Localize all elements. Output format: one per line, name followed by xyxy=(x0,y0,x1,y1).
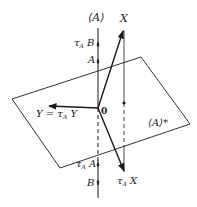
vector-tau-X xyxy=(98,108,124,171)
reflection-diagram: ⟨A⟩ X τA B A 0 Y = τA Y ⟨A⟩* τA A' B τA … xyxy=(0,0,197,207)
label-tau-A-prime: τA A' xyxy=(76,158,99,170)
label-X: X xyxy=(119,12,129,25)
label-Y-equation: Y = τA Y xyxy=(36,108,78,120)
label-subspace-A: ⟨A⟩ xyxy=(88,11,105,24)
label-tau-B: τA B xyxy=(74,37,94,49)
label-A: A xyxy=(87,54,95,65)
label-tau-X: τA X xyxy=(117,175,138,187)
label-origin: 0 xyxy=(101,106,107,116)
projection-point xyxy=(122,101,125,104)
label-B: B xyxy=(86,177,94,188)
label-orthogonal-complement: ⟨A⟩* xyxy=(148,117,168,128)
